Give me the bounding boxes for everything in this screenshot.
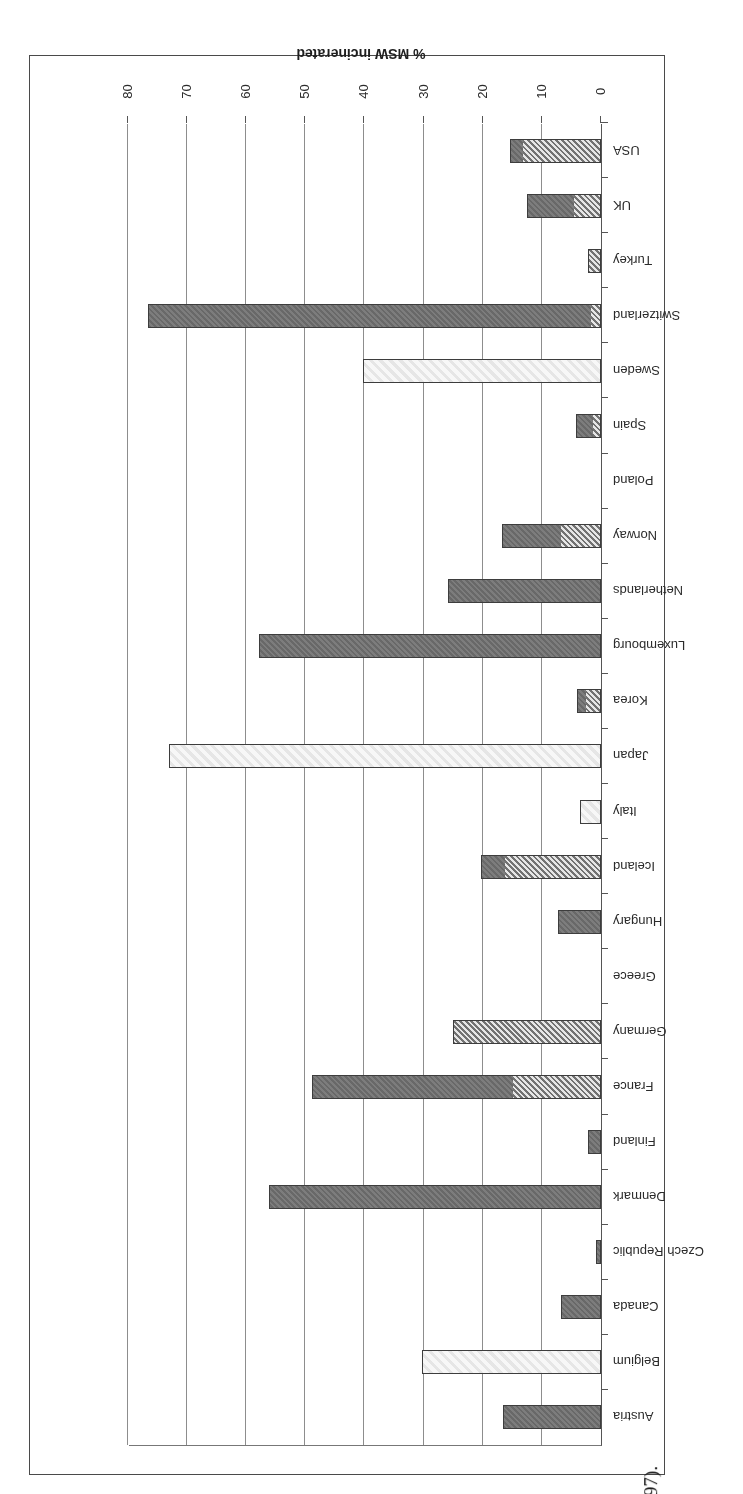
category-label: Spain xyxy=(613,419,646,432)
category-tick xyxy=(601,1003,608,1004)
bar xyxy=(510,139,601,163)
bar-segment-solid xyxy=(597,1241,600,1263)
category-tick xyxy=(601,1114,608,1115)
bar xyxy=(576,414,601,438)
bar-row: Germany xyxy=(129,1004,601,1059)
category-tick xyxy=(601,563,608,564)
category-tick xyxy=(601,893,608,894)
category-label: Turkey xyxy=(613,254,652,267)
bar-segment-solid xyxy=(589,1131,600,1153)
category-tick xyxy=(601,453,608,454)
bar-segment-solid xyxy=(503,525,561,547)
axis-tick-label: 30 xyxy=(416,77,431,107)
category-tick xyxy=(601,783,608,784)
bar xyxy=(596,1240,601,1264)
axis-tick-label: 50 xyxy=(298,77,313,107)
category-tick xyxy=(601,122,608,123)
bar xyxy=(503,1405,601,1429)
bar xyxy=(269,1185,601,1209)
bar xyxy=(577,689,601,713)
category-tick xyxy=(601,1224,608,1225)
chart-canvas: % MSW incinerated 01020304050607080 Aust… xyxy=(30,56,666,1476)
axis-tick xyxy=(364,116,365,123)
axis-tick-label: 0 xyxy=(594,77,609,107)
bar xyxy=(561,1295,601,1319)
axis-tick-label: 20 xyxy=(475,77,490,107)
bar-row: Spain xyxy=(129,398,601,453)
category-tick xyxy=(601,618,608,619)
category-label: Iceland xyxy=(613,860,655,873)
axis-tick xyxy=(482,116,483,123)
bar-segment-solid xyxy=(149,305,590,327)
category-label: Hungary xyxy=(613,915,662,928)
category-tick xyxy=(601,287,608,288)
category-label: Poland xyxy=(613,474,653,487)
category-label: Belgium xyxy=(613,1355,660,1368)
bar-segment-solid xyxy=(578,690,586,712)
axis-tick xyxy=(186,116,187,123)
category-tick xyxy=(601,177,608,178)
category-label: Italy xyxy=(613,805,637,818)
figure-caption-text: Incineration of MSW. Source: OECD (1997)… xyxy=(640,1466,661,1494)
bar-segment-solid xyxy=(504,1406,600,1428)
bar-segment-hatched xyxy=(586,690,600,712)
category-label: Norway xyxy=(613,529,657,542)
bar-segment-solid xyxy=(562,1296,600,1318)
bar-segment-hatched xyxy=(591,305,600,327)
figure-frame: % MSW incinerated 01020304050607080 Aust… xyxy=(29,55,665,1475)
axis-tick-label: 60 xyxy=(239,77,254,107)
axis-tick xyxy=(541,116,542,123)
x-axis-title: % MSW incinerated xyxy=(296,46,425,62)
bar-segment-solid xyxy=(449,580,600,602)
bar-segment-hatched xyxy=(574,195,600,217)
bar-row: Switzerland xyxy=(129,288,601,343)
category-tick xyxy=(601,673,608,674)
axis-tick-label: 10 xyxy=(534,77,549,107)
bar-row: Greece xyxy=(129,949,601,1004)
category-label: Finland xyxy=(613,1135,656,1148)
bar-row: Luxembourg xyxy=(129,619,601,674)
bar-segment-solid xyxy=(528,195,574,217)
category-label: Germany xyxy=(613,1025,666,1038)
bar-segment-open xyxy=(170,745,600,767)
axis-tick xyxy=(245,116,246,123)
bar xyxy=(448,579,601,603)
bar-segment-open xyxy=(423,1351,600,1373)
bar xyxy=(588,1130,601,1154)
bar-row: Iceland xyxy=(129,839,601,894)
bar xyxy=(558,910,601,934)
category-tick xyxy=(601,342,608,343)
category-tick xyxy=(601,232,608,233)
axis-tick xyxy=(127,116,128,123)
bar-segment-hatched xyxy=(454,1021,600,1043)
axis-tick xyxy=(304,116,305,123)
gridline xyxy=(127,124,128,1445)
category-label: Austria xyxy=(613,1410,653,1423)
plot-area: 01020304050607080 AustriaBelgiumCanadaCz… xyxy=(129,124,602,1446)
category-tick xyxy=(601,397,608,398)
bar xyxy=(527,194,601,218)
bar-row: Canada xyxy=(129,1280,601,1335)
category-label: Denmark xyxy=(613,1190,666,1203)
axis-tick-label: 40 xyxy=(357,77,372,107)
bar xyxy=(312,1075,601,1099)
category-label: Netherlands xyxy=(613,584,683,597)
bar-row: Turkey xyxy=(129,233,601,288)
category-label: Japan xyxy=(613,749,648,762)
bar-segment-solid xyxy=(559,911,600,933)
bar-segment-solid xyxy=(260,635,600,657)
bar-segment-solid xyxy=(511,140,523,162)
category-tick xyxy=(601,1169,608,1170)
category-label: Korea xyxy=(613,694,648,707)
category-label: Canada xyxy=(613,1300,659,1313)
category-tick xyxy=(601,508,608,509)
bar-row: Hungary xyxy=(129,894,601,949)
bar-row: Netherlands xyxy=(129,564,601,619)
category-tick xyxy=(601,1389,608,1390)
category-label: Sweden xyxy=(613,364,660,377)
bar-segment-open xyxy=(364,360,600,382)
category-tick xyxy=(601,948,608,949)
bar-row: Korea xyxy=(129,674,601,729)
bar-row: Norway xyxy=(129,509,601,564)
bar-row: Sweden xyxy=(129,343,601,398)
